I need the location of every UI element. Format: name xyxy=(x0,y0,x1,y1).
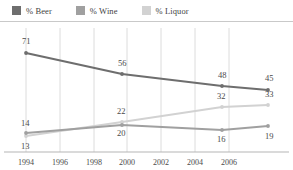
datalabel-wine-3: 19 xyxy=(265,131,274,141)
datalabel-wine-0: 14 xyxy=(21,118,30,128)
datapoint-beer-2[interactable] xyxy=(220,84,224,88)
line-liquor xyxy=(26,105,268,136)
datalabel-beer-0: 71 xyxy=(22,36,31,46)
legend-swatch-liquor xyxy=(142,6,151,15)
chart-container: % Beer % Wine % Liquor 13223233 14201619… xyxy=(0,0,293,170)
datalabel-liquor-3: 33 xyxy=(265,89,274,99)
datalabel-liquor-0: 13 xyxy=(21,141,30,151)
datalabel-wine-2: 16 xyxy=(217,134,226,144)
chart-series-beer xyxy=(24,51,270,92)
x-tick-0: 1994 xyxy=(18,158,34,167)
datalabel-liquor-2: 32 xyxy=(217,91,226,101)
x-tick-1: 1996 xyxy=(52,158,68,167)
legend-swatch-beer xyxy=(12,6,21,15)
line-beer xyxy=(26,53,268,90)
chart-x-tick-labels: 1994199619982000200220042006 xyxy=(18,158,237,167)
legend-item-beer[interactable]: % Beer xyxy=(12,6,52,16)
datapoint-beer-0[interactable] xyxy=(24,51,28,55)
legend-label-liquor: % Liquor xyxy=(156,6,189,16)
legend-item-liquor[interactable]: % Liquor xyxy=(142,6,189,16)
datalabel-beer-2: 48 xyxy=(218,70,227,80)
datapoint-wine-2[interactable] xyxy=(220,128,224,132)
x-tick-4: 2002 xyxy=(153,158,169,167)
legend-swatch-wine xyxy=(76,6,85,15)
datapoint-wine-0[interactable] xyxy=(24,131,28,135)
chart-svg: 13223233 14201619 71564845 1994199619982… xyxy=(0,22,293,170)
datalabel-liquor-1: 22 xyxy=(117,106,126,116)
x-tick-2: 1998 xyxy=(86,158,102,167)
datapoint-liquor-2[interactable] xyxy=(220,105,224,109)
x-tick-3: 2000 xyxy=(119,158,135,167)
chart-labels-liquor: 13223233 xyxy=(21,89,274,151)
line-wine xyxy=(26,125,268,133)
chart-gridlines xyxy=(26,28,229,152)
chart-legend: % Beer % Wine % Liquor xyxy=(0,0,293,22)
chart-plot-area: 13223233 14201619 71564845 1994199619982… xyxy=(0,22,293,170)
chart-series-liquor xyxy=(24,103,270,138)
datapoint-liquor-3[interactable] xyxy=(266,103,270,107)
legend-item-wine[interactable]: % Wine xyxy=(76,6,118,16)
x-tick-6: 2006 xyxy=(221,158,237,167)
datalabel-wine-1: 20 xyxy=(117,128,126,138)
datalabel-beer-3: 45 xyxy=(265,73,274,83)
x-tick-5: 2004 xyxy=(187,158,203,167)
chart-series-wine xyxy=(24,123,270,135)
datapoint-beer-1[interactable] xyxy=(120,72,124,76)
datapoint-wine-3[interactable] xyxy=(266,124,270,128)
datalabel-beer-1: 56 xyxy=(118,58,127,68)
legend-label-wine: % Wine xyxy=(90,6,118,16)
datapoint-wine-1[interactable] xyxy=(120,123,124,127)
legend-label-beer: % Beer xyxy=(26,6,52,16)
